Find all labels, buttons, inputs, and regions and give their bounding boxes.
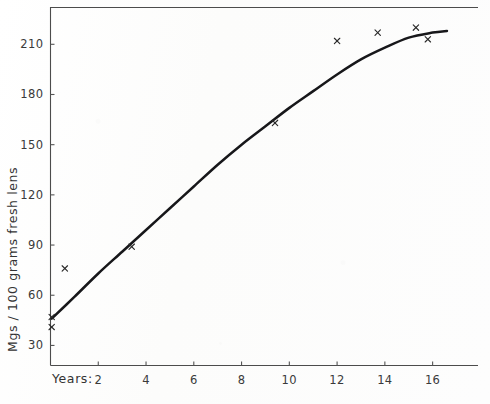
y-axis-tick-marks — [51, 44, 55, 345]
y-tick-label: 210 — [20, 37, 43, 51]
y-axis-title: Mgs / 100 grams fresh lens — [5, 167, 20, 352]
x-tick-label: 4 — [142, 373, 150, 387]
axis-spine-left-top — [51, 8, 479, 366]
x-tick-label: 2 — [94, 373, 102, 387]
data-point-marker — [334, 38, 339, 43]
fitted-curve-line — [52, 31, 447, 319]
x-tick-label: 8 — [238, 373, 246, 387]
chart-figure: 306090120150180210 246810121416 Mgs / 10… — [0, 0, 490, 404]
chart-canvas: 306090120150180210 246810121416 Mgs / 10… — [0, 0, 490, 404]
data-point-marker — [129, 244, 134, 249]
data-point-marker — [272, 120, 277, 125]
x-tick-label: 10 — [282, 373, 297, 387]
y-tick-label: 60 — [28, 288, 43, 302]
x-axis-tick-marks — [98, 362, 432, 366]
x-tick-label: 12 — [329, 373, 344, 387]
x-axis-tick-labels: 246810121416 — [94, 373, 440, 387]
data-point-marker — [375, 30, 380, 35]
data-point-marker — [413, 25, 418, 30]
x-tick-label: 6 — [190, 373, 198, 387]
y-tick-label: 120 — [20, 188, 43, 202]
y-tick-label: 180 — [20, 87, 43, 101]
x-axis-title: Years: — [51, 371, 93, 386]
y-tick-label: 30 — [28, 338, 43, 352]
x-tick-label: 16 — [425, 373, 440, 387]
y-tick-label: 150 — [20, 138, 43, 152]
data-point-marker — [49, 324, 54, 329]
data-point-marker — [62, 266, 67, 271]
x-tick-label: 14 — [377, 373, 392, 387]
data-point-marker — [425, 37, 430, 42]
y-tick-label: 90 — [28, 238, 43, 252]
data-point-markers — [49, 25, 431, 330]
y-axis-tick-labels: 306090120150180210 — [20, 37, 43, 352]
